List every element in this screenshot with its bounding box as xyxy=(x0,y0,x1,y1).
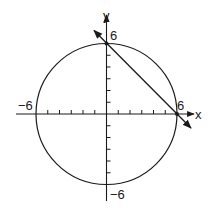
intersection-point-y xyxy=(105,42,109,46)
y-axis-label: y xyxy=(103,8,110,23)
x-neg-label: −6 xyxy=(18,98,33,113)
y-neg-label: −6 xyxy=(110,187,125,202)
coordinate-diagram: y x 6 6 −6 −6 xyxy=(0,0,212,217)
x-pos-label: 6 xyxy=(177,98,184,113)
y-pos-label: 6 xyxy=(110,28,117,43)
x-axis-label: x xyxy=(195,107,202,122)
